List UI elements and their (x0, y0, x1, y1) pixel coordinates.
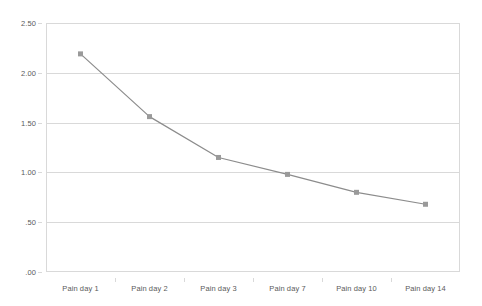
y-axis-tick-label: 1.50 (21, 118, 36, 127)
x-axis-tick-mark (184, 278, 185, 282)
x-axis-tick-label: Pain day 2 (131, 284, 167, 293)
y-axis-tick-mark (38, 23, 42, 24)
x-axis-tick-label: Pain day 3 (200, 284, 236, 293)
gridline (47, 123, 459, 124)
y-axis-tick-mark (38, 73, 42, 74)
x-axis-tick-label: Pain day 7 (269, 284, 305, 293)
y-axis-tick-label: 2.50 (21, 19, 36, 28)
gridline (47, 222, 459, 223)
x-axis-tick-mark (253, 278, 254, 282)
gridline (47, 172, 459, 173)
x-axis: Pain day 1Pain day 2Pain day 3Pain day 7… (46, 278, 460, 298)
gridline (47, 73, 459, 74)
x-axis-tick-label: Pain day 1 (62, 284, 98, 293)
y-axis-tick-mark (38, 272, 42, 273)
x-axis-tick-label: Pain day 14 (405, 284, 446, 293)
y-axis: 2.502.001.501.00.50.00 (0, 23, 42, 272)
y-axis-tick-label: 1.00 (21, 168, 36, 177)
plot-area (46, 23, 460, 272)
x-axis-tick-mark (322, 278, 323, 282)
y-axis-tick-mark (38, 222, 42, 223)
y-axis-tick-label: .00 (25, 268, 36, 277)
y-axis-tick-mark (38, 172, 42, 173)
y-axis-tick-label: .50 (25, 218, 36, 227)
line-chart: 2.502.001.501.00.50.00 Pain day 1Pain da… (0, 0, 482, 306)
y-axis-tick-label: 2.00 (21, 68, 36, 77)
x-axis-tick-label: Pain day 10 (336, 284, 377, 293)
x-axis-tick-mark (115, 278, 116, 282)
y-axis-tick-mark (38, 123, 42, 124)
x-axis-tick-mark (391, 278, 392, 282)
